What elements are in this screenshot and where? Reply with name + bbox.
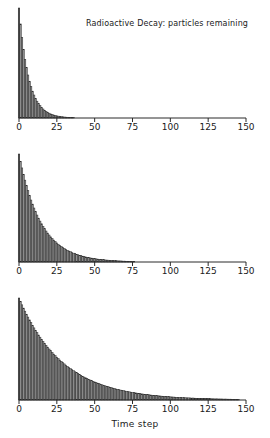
x-tick-label: 25 (51, 122, 62, 132)
x-tick-label: 75 (127, 404, 138, 414)
bar-series (18, 8, 74, 118)
x-tick-label: 75 (127, 266, 138, 276)
x-tick-label: 150 (237, 122, 254, 132)
x-tick-label: 150 (237, 404, 254, 414)
chart-panel-slow-decay: 0255075100125150 (0, 290, 270, 438)
x-tick-label: 50 (89, 266, 101, 276)
chart-panel-medium-decay: 0255075100125150 (0, 146, 270, 290)
x-tick-label: 125 (200, 404, 217, 414)
x-tick-label: 100 (162, 266, 179, 276)
panel-plot-area: 0255075100125150 (0, 146, 270, 290)
x-tick-label: 75 (127, 122, 138, 132)
x-tick-label: 0 (16, 404, 22, 414)
x-tick-label: 0 (16, 266, 22, 276)
x-tick-label: 50 (89, 122, 101, 132)
panel-plot-area: 0255075100125150 (0, 290, 270, 438)
x-tick-label: 150 (237, 266, 254, 276)
x-tick-label: 0 (16, 122, 22, 132)
x-axis-label: Time step (0, 419, 270, 429)
chart-panel-fast-decay: 0255075100125150 (0, 0, 270, 146)
x-tick-label: 100 (162, 122, 179, 132)
x-tick-label: 100 (162, 404, 179, 414)
x-tick-label: 125 (200, 266, 217, 276)
x-tick-label: 25 (51, 266, 62, 276)
x-tick-label: 50 (89, 404, 101, 414)
panel-plot-area: 0255075100125150 (0, 0, 270, 146)
bar-series (18, 154, 135, 262)
x-tick-label: 25 (51, 404, 62, 414)
decay-figure: Radioactive Decay: particles remaining 0… (0, 0, 270, 438)
x-tick-label: 125 (200, 122, 217, 132)
bar-series (18, 298, 239, 400)
